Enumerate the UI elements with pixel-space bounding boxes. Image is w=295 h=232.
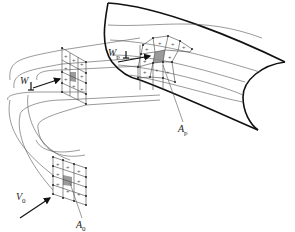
svg-text:+: + xyxy=(56,171,60,177)
svg-text:+: + xyxy=(145,46,149,52)
grid-a0: ++ ++ ++ ++ xyxy=(52,156,87,218)
svg-text:+: + xyxy=(56,181,60,187)
svg-text:+: + xyxy=(64,53,68,59)
svg-text:+: + xyxy=(72,83,76,89)
svg-text:+: + xyxy=(56,161,60,167)
svg-text:+: + xyxy=(155,67,159,73)
svg-text:+: + xyxy=(158,40,162,46)
svg-text:+: + xyxy=(77,168,81,174)
svg-text:+: + xyxy=(77,178,81,184)
svg-text:+: + xyxy=(77,191,81,197)
svg-text:+: + xyxy=(168,54,172,60)
svg-text:+: + xyxy=(64,65,68,71)
velocity-arrow-w xyxy=(28,79,60,90)
svg-text:+: + xyxy=(80,86,84,92)
label-a0: A0 xyxy=(75,219,86,232)
cylinder xyxy=(104,3,285,130)
svg-text:+: + xyxy=(182,44,186,50)
label-w: W xyxy=(20,75,30,86)
label-v0: V0 xyxy=(16,191,26,205)
svg-text:+: + xyxy=(171,41,175,47)
svg-text:+: + xyxy=(72,57,76,63)
svg-text:+: + xyxy=(64,76,68,82)
svg-text:+: + xyxy=(66,188,70,194)
svg-text:+: + xyxy=(66,164,70,170)
svg-text:+: + xyxy=(143,69,147,75)
label-ap: Ap xyxy=(177,123,188,137)
flow-diagram: ++ ++ ++ ++ + ++ ++ ++ ++ xyxy=(0,0,295,232)
svg-text:+: + xyxy=(166,69,170,75)
svg-text:+: + xyxy=(80,61,84,67)
grid-ap: ++ ++ ++ ++ + xyxy=(137,35,193,122)
svg-text:+: + xyxy=(143,58,147,64)
svg-text:+: + xyxy=(80,73,84,79)
grid-intermediate: ++ ++ ++ ++ xyxy=(61,47,87,105)
